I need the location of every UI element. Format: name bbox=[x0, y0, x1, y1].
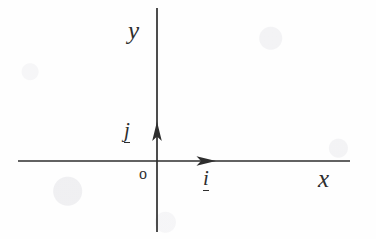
axes-diagram bbox=[0, 0, 376, 239]
figure-canvas: y x o j i bbox=[0, 0, 376, 239]
origin-label: o bbox=[139, 166, 147, 182]
x-axis-label: x bbox=[318, 166, 329, 191]
unit-vector-j-label: j bbox=[124, 120, 130, 143]
y-axis-label: y bbox=[128, 18, 139, 43]
unit-vector-j-glyph: j bbox=[124, 120, 130, 143]
unit-vector-i-label: i bbox=[203, 168, 209, 191]
unit-vector-i-glyph: i bbox=[203, 168, 209, 191]
